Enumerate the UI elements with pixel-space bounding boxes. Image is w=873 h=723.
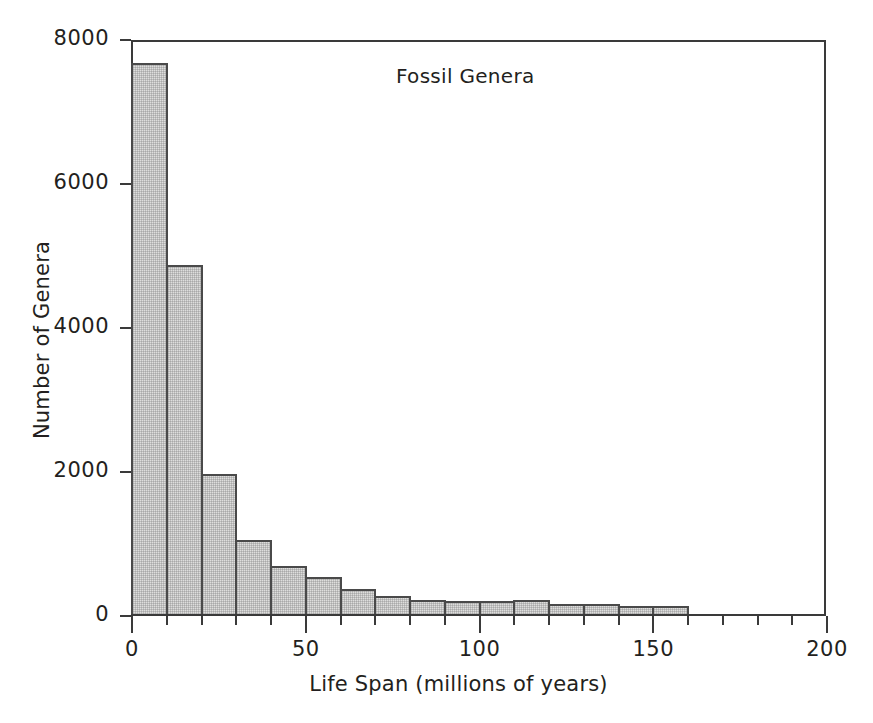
x-axis-tick-label: 150 (618, 637, 688, 661)
histogram-bar (583, 604, 620, 614)
histogram-bar (513, 600, 550, 614)
x-axis-major-tick (826, 616, 828, 633)
x-axis-minor-tick (757, 616, 759, 625)
histogram-bar (340, 589, 377, 614)
x-axis-minor-tick (340, 616, 342, 625)
x-axis-minor-tick (270, 616, 272, 625)
y-axis-tick (120, 327, 131, 329)
x-axis-minor-tick (513, 616, 515, 625)
plot-area (131, 40, 826, 616)
x-axis-minor-tick (201, 616, 203, 625)
x-axis-tick-label: 200 (792, 637, 862, 661)
y-axis-tick-label: 0 (0, 602, 109, 626)
histogram-bar (618, 606, 655, 614)
y-axis-tick (120, 615, 131, 617)
x-axis-minor-tick (583, 616, 585, 625)
x-axis-title-text: Life Span (millions of years) (309, 672, 608, 696)
x-axis-minor-tick (166, 616, 168, 625)
x-axis-major-tick (479, 616, 481, 633)
histogram-bar (444, 601, 481, 614)
x-axis-tick-label: 100 (445, 637, 515, 661)
x-axis-major-tick (652, 616, 654, 633)
x-axis-minor-tick (235, 616, 237, 625)
y-axis-tick (120, 471, 131, 473)
x-axis-title: Life Span (millions of years) (0, 672, 873, 696)
x-axis-major-tick (131, 616, 133, 633)
histogram-bar (305, 577, 342, 614)
y-axis-tick-label: 2000 (0, 458, 109, 482)
y-axis-tick (120, 39, 131, 41)
histogram-bar (548, 604, 585, 614)
histogram-bar (166, 265, 203, 614)
x-axis-minor-tick (687, 616, 689, 625)
x-axis-minor-tick (791, 616, 793, 625)
chart-title: Fossil Genera (396, 64, 535, 88)
y-axis-tick-label: 4000 (0, 314, 109, 338)
x-axis-minor-tick (444, 616, 446, 625)
x-axis-minor-tick (374, 616, 376, 625)
histogram-bar (409, 600, 446, 614)
y-axis-title: Number of Genera (30, 40, 54, 640)
histogram-bar (235, 540, 272, 614)
fossil-genera-histogram-figure: 02000400060008000 Number of Genera Fossi… (0, 0, 873, 723)
histogram-bar (270, 566, 307, 614)
y-axis-tick-label: 8000 (0, 26, 109, 50)
histogram-bar (479, 601, 516, 614)
x-axis-minor-tick (409, 616, 411, 625)
y-axis-tick-label: 6000 (0, 170, 109, 194)
histogram-bar (652, 606, 689, 614)
x-axis-tick-label: 50 (271, 637, 341, 661)
y-axis-tick (120, 183, 131, 185)
x-axis-minor-tick (618, 616, 620, 625)
histogram-bar (374, 596, 411, 614)
histogram-bar (131, 63, 168, 614)
histogram-bars (131, 40, 826, 616)
x-axis-minor-tick (722, 616, 724, 625)
x-axis-minor-tick (548, 616, 550, 625)
x-axis-major-tick (305, 616, 307, 633)
x-axis-tick-label: 0 (97, 637, 167, 661)
histogram-bar (201, 474, 238, 614)
